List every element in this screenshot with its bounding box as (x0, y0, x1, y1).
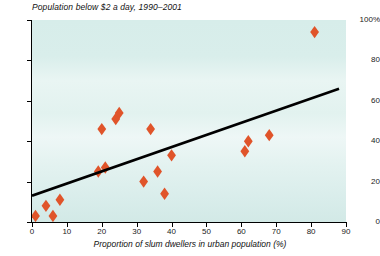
x-tick-label: 80 (298, 227, 324, 236)
data-point (310, 26, 319, 38)
x-tick-label: 20 (89, 227, 115, 236)
data-point-series (32, 26, 319, 222)
data-point (153, 165, 162, 177)
data-point (49, 210, 58, 222)
data-point (42, 200, 51, 212)
x-tick-label: 70 (263, 227, 289, 236)
y-tick-mark (27, 182, 31, 183)
x-tick-label: 30 (124, 227, 150, 236)
data-point (97, 123, 106, 135)
y-tick-mark (27, 60, 31, 61)
data-point (160, 188, 169, 200)
data-point (265, 129, 274, 141)
data-point (56, 194, 65, 206)
y-tick-mark (27, 20, 31, 21)
x-tick-label: 90 (333, 227, 359, 236)
x-axis-line (31, 222, 347, 223)
y-tick-mark (27, 222, 31, 223)
data-point (244, 135, 253, 147)
data-point (167, 149, 176, 161)
trend-line (32, 89, 339, 196)
y-axis-line (31, 20, 32, 223)
plot-svg (32, 20, 346, 222)
y-tick-label: 20 (354, 178, 380, 186)
x-tick-label: 10 (54, 227, 80, 236)
trend-line-segment (32, 89, 339, 196)
y-tick-label: 60 (354, 97, 380, 105)
x-tick-label: 50 (193, 227, 219, 236)
data-point (146, 123, 155, 135)
data-point (139, 175, 148, 187)
x-tick-label: 60 (228, 227, 254, 236)
y-tick-label: 40 (354, 137, 380, 145)
plot-area (32, 20, 346, 222)
y-tick-label: 0 (354, 218, 380, 226)
y-tick-label: 80 (354, 56, 380, 64)
x-axis-title: Proportion of slum dwellers in urban pop… (0, 239, 380, 249)
data-point (240, 145, 249, 157)
scatter-chart: Population below $2 a day, 1990–2001 020… (0, 0, 380, 256)
x-tick-label: 0 (19, 227, 45, 236)
data-point (32, 210, 40, 222)
x-tick-label: 40 (159, 227, 185, 236)
y-tick-mark (27, 141, 31, 142)
y-tick-label: 100% (354, 16, 380, 24)
chart-title: Population below $2 a day, 1990–2001 (32, 2, 182, 12)
y-tick-mark (27, 101, 31, 102)
